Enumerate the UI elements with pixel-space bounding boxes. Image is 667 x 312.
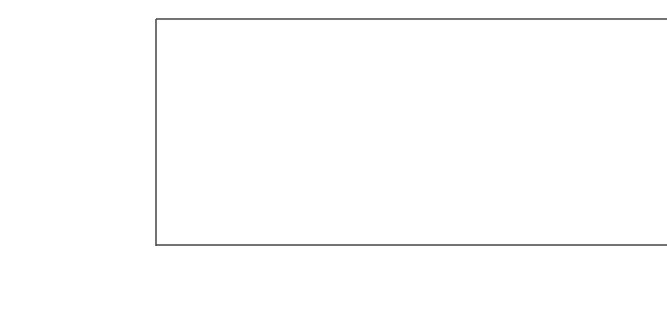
chart-canvas: [0, 0, 667, 312]
axes-frame: [156, 19, 667, 246]
